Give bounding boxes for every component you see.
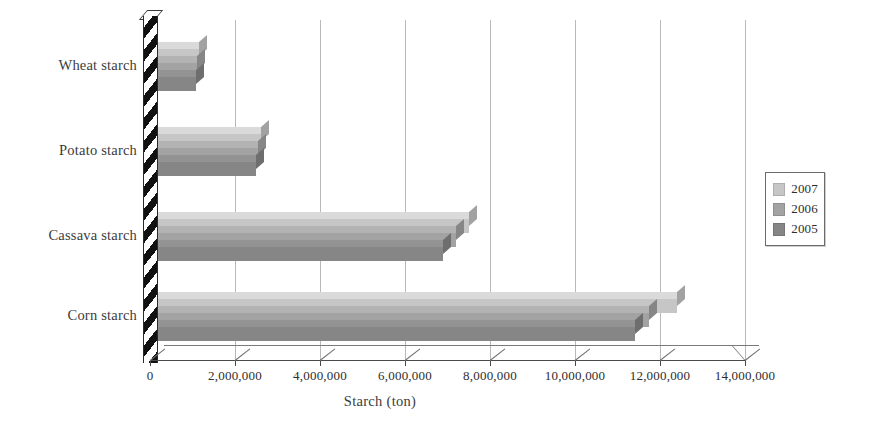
bar-top	[150, 155, 262, 162]
bar-top	[150, 320, 641, 327]
x-tick-label: 4,000,000	[293, 368, 347, 384]
bar-face	[150, 327, 635, 341]
bar-top	[150, 141, 264, 148]
x-tick-label: 6,000,000	[378, 368, 432, 384]
bar-top	[150, 306, 655, 313]
legend-label-2007: 2007	[791, 181, 818, 197]
gridline	[745, 20, 746, 360]
legend-label-2006: 2006	[791, 201, 818, 217]
legend-label-2005: 2005	[791, 221, 818, 237]
bar-face	[150, 162, 256, 176]
x-tick-label: 14,000,000	[715, 368, 776, 384]
y-axis-wall	[143, 16, 158, 363]
legend-swatch-2006	[773, 203, 785, 216]
bar	[150, 247, 443, 261]
bar-top	[150, 212, 475, 219]
legend-swatch-2005	[773, 223, 785, 236]
legend-item-2005[interactable]: 2005	[773, 219, 818, 239]
bar-top	[150, 127, 267, 134]
legend-item-2007[interactable]: 2007	[773, 179, 818, 199]
bar-face	[150, 247, 443, 261]
x-axis-title-text: Starch (ton)	[344, 393, 416, 409]
bar-top	[150, 240, 449, 247]
bar	[150, 327, 635, 341]
x-tick-label: 2,000,000	[208, 368, 262, 384]
category-labels: Wheat starchPotato starchCassava starchC…	[0, 0, 137, 433]
bar-chart: 02,000,0004,000,0006,000,0008,000,00010,…	[0, 0, 876, 433]
floor-back-edge	[164, 345, 759, 346]
category-label: Cassava starch	[48, 227, 137, 244]
category-label: Potato starch	[59, 142, 137, 159]
x-tick-label: 12,000,000	[630, 368, 691, 384]
legend[interactable]: 2007 2006 2005	[765, 172, 825, 246]
legend-item-2006[interactable]: 2006	[773, 199, 818, 219]
bar-top	[150, 292, 683, 299]
legend-swatch-2007	[773, 183, 785, 196]
x-tick-label: 8,000,000	[463, 368, 517, 384]
bar-top	[150, 226, 462, 233]
bar	[150, 162, 256, 176]
category-label: Wheat starch	[59, 57, 137, 74]
x-tick-label: 0	[147, 368, 154, 384]
x-tick-label: 10,000,000	[545, 368, 606, 384]
category-label: Corn starch	[68, 307, 137, 324]
x-axis-title: Starch (ton)	[0, 393, 876, 410]
bar-top	[150, 42, 205, 49]
x-axis-line	[150, 360, 745, 361]
